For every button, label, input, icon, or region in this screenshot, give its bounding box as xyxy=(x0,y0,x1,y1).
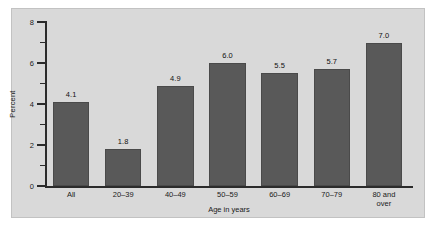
y-axis-tick-label: 6 xyxy=(8,59,34,68)
y-axis-tick xyxy=(37,185,45,187)
bar-value-label: 4.9 xyxy=(170,74,181,83)
bar-group[interactable]: 4.9 xyxy=(157,22,194,186)
y-axis-tick xyxy=(37,21,45,23)
bar-group[interactable]: 4.1 xyxy=(53,22,90,186)
bar[interactable] xyxy=(209,63,246,186)
bar[interactable] xyxy=(314,69,351,186)
y-axis-tick-labels: 02468 xyxy=(0,0,34,226)
bar-group[interactable]: 1.8 xyxy=(105,22,142,186)
y-axis-tick xyxy=(37,103,45,105)
x-axis-title: Age in years xyxy=(45,205,413,214)
x-axis-tick-label: 60–69 xyxy=(254,191,306,200)
bar-group[interactable]: 5.5 xyxy=(261,22,298,186)
bar[interactable] xyxy=(53,102,90,186)
x-axis-tick-label: 50–59 xyxy=(201,191,253,200)
bar[interactable] xyxy=(366,43,403,187)
x-axis-line xyxy=(45,186,413,188)
bar[interactable] xyxy=(105,149,142,186)
figure: 02468 Percent 4.11.84.96.05.55.77.0 All2… xyxy=(0,0,435,226)
bar-group[interactable]: 5.7 xyxy=(314,22,351,186)
bar-group[interactable]: 7.0 xyxy=(366,22,403,186)
plot-area: 4.11.84.96.05.55.77.0 xyxy=(45,22,410,186)
x-axis-tick-label: 40–49 xyxy=(149,191,201,200)
bar-value-label: 1.8 xyxy=(118,137,129,146)
x-axis-tick-label: 20–39 xyxy=(97,191,149,200)
bar-group[interactable]: 6.0 xyxy=(209,22,246,186)
bar[interactable] xyxy=(157,86,194,186)
x-axis-tick-label: 70–79 xyxy=(306,191,358,200)
bar-value-label: 6.0 xyxy=(222,51,233,60)
y-axis-tick-label: 0 xyxy=(8,182,34,191)
y-axis-tick xyxy=(37,62,45,64)
y-axis-title: Percent xyxy=(8,90,17,117)
y-axis-tick-label: 2 xyxy=(8,141,34,150)
bar-value-label: 5.5 xyxy=(274,61,285,70)
bar-value-label: 4.1 xyxy=(66,90,77,99)
y-axis-tick xyxy=(37,144,45,146)
x-axis-tick-label: All xyxy=(45,191,97,200)
bar-value-label: 5.7 xyxy=(326,57,337,66)
bar[interactable] xyxy=(261,73,298,186)
bar-value-label: 7.0 xyxy=(379,31,390,40)
y-axis-tick-label: 8 xyxy=(8,18,34,27)
